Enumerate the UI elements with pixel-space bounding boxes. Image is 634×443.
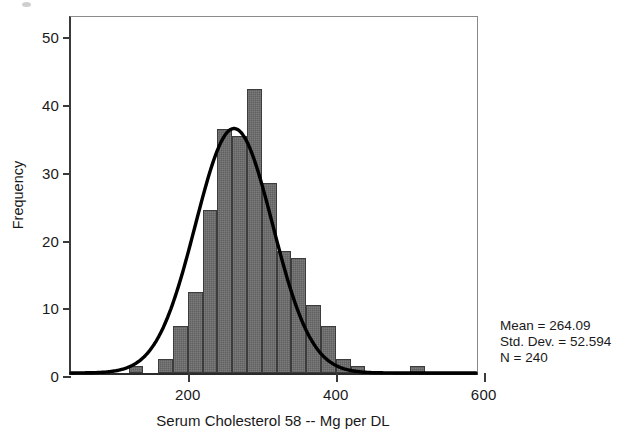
histogram-bar xyxy=(232,136,247,373)
histogram-bar xyxy=(217,129,232,373)
histogram-bar xyxy=(336,359,351,373)
y-axis-tick-label: 20 xyxy=(42,232,59,249)
histogram-bar xyxy=(410,366,425,373)
x-axis-tick-label: 400 xyxy=(323,386,349,403)
y-axis-title: Frequency xyxy=(10,161,26,230)
y-axis-tick xyxy=(63,241,71,243)
x-axis-tick xyxy=(336,373,338,382)
histogram-bar xyxy=(129,366,144,373)
y-axis-tick-label: 30 xyxy=(42,164,59,181)
histogram-bar xyxy=(188,292,203,373)
artifact-speck xyxy=(22,2,31,7)
y-axis-tick-label: 0 xyxy=(50,368,59,385)
statistics-annotation: Mean = 264.09 Std. Dev. = 52.594 N = 240 xyxy=(500,318,611,366)
y-axis-tick xyxy=(63,376,71,378)
plot-inner: 01020304050200400600 xyxy=(71,17,477,373)
stat-n: N = 240 xyxy=(500,350,611,366)
stat-mean: Mean = 264.09 xyxy=(500,318,611,334)
plot-area: 01020304050200400600 xyxy=(69,16,478,375)
y-axis-tick xyxy=(63,105,71,107)
x-axis-tick xyxy=(484,373,486,382)
x-axis-tick-label: 600 xyxy=(471,386,497,403)
histogram-bar xyxy=(203,210,218,373)
y-axis-tick-label: 10 xyxy=(42,300,59,317)
histogram-bar xyxy=(291,258,306,373)
histogram-bar xyxy=(321,326,336,373)
histogram-bar xyxy=(247,89,262,373)
histogram-bar xyxy=(262,183,277,373)
y-axis-tick xyxy=(63,173,71,175)
x-axis-title: Serum Cholesterol 58 -- Mg per DL xyxy=(156,412,389,429)
y-axis-tick-label: 40 xyxy=(42,97,59,114)
histogram-bar xyxy=(306,305,321,373)
y-axis-tick xyxy=(63,37,71,39)
histogram-bar xyxy=(173,326,188,373)
histogram-bar xyxy=(351,366,366,373)
x-axis-tick xyxy=(188,373,190,382)
y-axis-tick xyxy=(63,308,71,310)
y-axis-tick-label: 50 xyxy=(42,29,59,46)
histogram-bar xyxy=(158,359,173,373)
chart-canvas: Frequency Serum Cholesterol 58 -- Mg per… xyxy=(0,0,634,443)
stat-std-dev: Std. Dev. = 52.594 xyxy=(500,334,611,350)
x-axis-tick-label: 200 xyxy=(175,386,201,403)
histogram-bar xyxy=(277,251,292,373)
